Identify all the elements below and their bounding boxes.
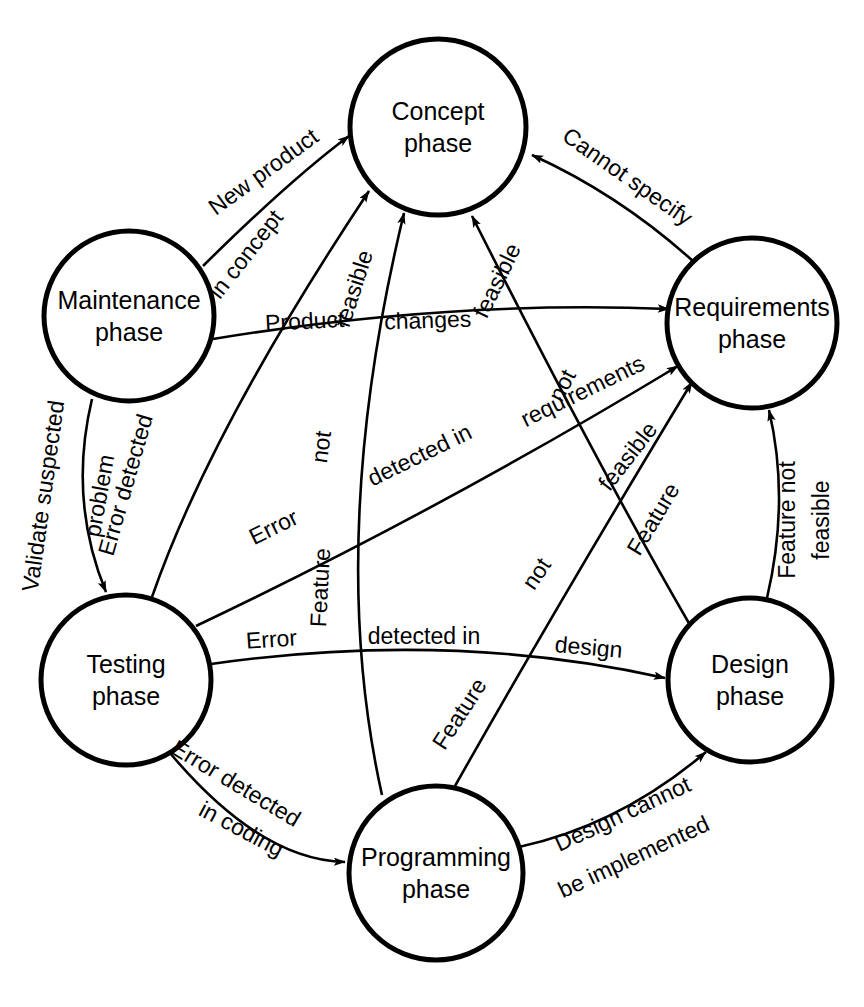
- node-concept-circle[interactable]: [350, 39, 526, 215]
- node-programming-circle[interactable]: [349, 786, 523, 960]
- node-testing-label-line2: phase: [92, 682, 160, 710]
- nodes-layer: Concept phase Maintenance phase Requirem…: [41, 39, 837, 960]
- edge-label-testing-to-requirements-part1: Error: [245, 504, 303, 550]
- node-design[interactable]: Design phase: [668, 598, 832, 762]
- node-requirements-label-line1: Requirements: [674, 293, 830, 321]
- node-requirements-circle[interactable]: [667, 238, 837, 408]
- node-maintenance-circle[interactable]: [44, 231, 214, 401]
- phase-transition-diagram: Concept phase Maintenance phase Requirem…: [0, 0, 864, 1007]
- edge-label-testing-to-requirements-part3: requirements: [516, 350, 648, 432]
- node-requirements[interactable]: Requirements phase: [667, 238, 837, 408]
- node-design-circle[interactable]: [668, 598, 832, 762]
- edge-label-maintenance-to-testing-part1: Validate suspected: [17, 399, 70, 593]
- edge-label-programming-to-concept-part2: not: [306, 429, 336, 465]
- diagram-canvas: Concept phase Maintenance phase Requirem…: [0, 0, 864, 1007]
- node-programming[interactable]: Programming phase: [349, 786, 523, 960]
- node-programming-label-line1: Programming: [361, 843, 511, 871]
- edge-label-testing-to-design-part3: design: [554, 631, 624, 663]
- edge-label-programming-to-requirements-part3: feasible: [593, 417, 662, 495]
- edge-label-design-to-requirements-part2: feasible: [808, 480, 834, 559]
- edge-label-testing-to-design-part2: detected in: [368, 623, 481, 649]
- node-concept-label-line2: phase: [404, 129, 472, 157]
- node-programming-label-line2: phase: [402, 875, 470, 903]
- node-concept-label-line1: Concept: [391, 97, 484, 125]
- edge-label-programming-to-requirements-part1: Feature: [427, 673, 492, 754]
- node-requirements-label-line2: phase: [718, 325, 786, 353]
- node-maintenance[interactable]: Maintenance phase: [44, 231, 214, 401]
- node-concept[interactable]: Concept phase: [350, 39, 526, 215]
- edge-testing-to-requirements: [196, 366, 678, 626]
- node-maintenance-label-line2: phase: [95, 318, 163, 346]
- edge-label-testing-to-design-part1: Error: [245, 624, 298, 654]
- edge-programming-to-concept: [358, 213, 404, 795]
- edge-label-requirements-to-concept: Cannot specify: [558, 122, 698, 231]
- edge-programming-to-requirements: [455, 382, 692, 786]
- node-maintenance-label-line1: Maintenance: [57, 286, 200, 314]
- edge-label-programming-to-concept-part1: Feature: [305, 547, 335, 628]
- edge-label-programming-to-requirements-part2: not: [517, 553, 557, 595]
- node-design-label-line2: phase: [716, 682, 784, 710]
- edge-label-maintenance-to-requirements-part2: changes: [384, 305, 472, 334]
- node-design-label-line1: Design: [711, 650, 789, 678]
- node-testing-label-line1: Testing: [86, 650, 165, 678]
- edge-label-design-to-requirements-part1: Feature not: [774, 461, 800, 579]
- edge-label-testing-to-requirements-part2: detected in: [363, 418, 476, 491]
